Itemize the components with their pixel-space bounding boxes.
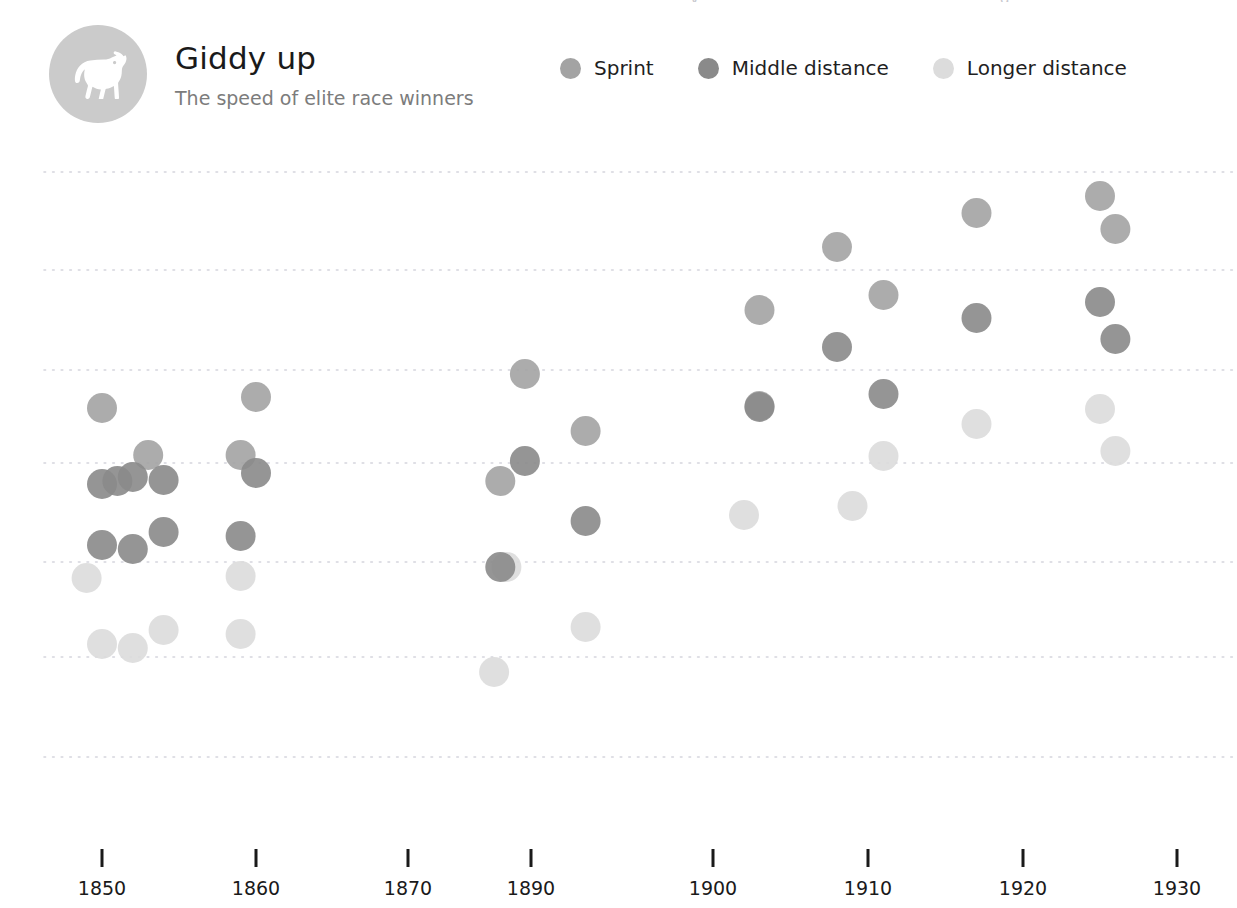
data-point[interactable] — [118, 462, 148, 492]
data-point[interactable] — [869, 280, 899, 310]
data-point[interactable] — [962, 198, 992, 228]
data-point[interactable] — [571, 506, 601, 536]
data-point[interactable] — [1085, 394, 1115, 424]
series-sprint — [87, 181, 1130, 496]
data-point[interactable] — [962, 409, 992, 439]
data-point[interactable] — [226, 619, 256, 649]
data-point[interactable] — [869, 379, 899, 409]
data-point[interactable] — [72, 563, 102, 593]
data-point[interactable] — [571, 416, 601, 446]
data-point[interactable] — [87, 530, 117, 560]
data-point[interactable] — [226, 521, 256, 551]
data-point[interactable] — [149, 615, 179, 645]
data-point[interactable] — [149, 517, 179, 547]
data-point[interactable] — [510, 359, 540, 389]
scatter-plot-canvas — [0, 0, 1237, 908]
data-point[interactable] — [1085, 287, 1115, 317]
data-point[interactable] — [485, 552, 515, 582]
data-point[interactable] — [485, 466, 515, 496]
data-point[interactable] — [1100, 324, 1130, 354]
data-point[interactable] — [118, 633, 148, 663]
data-point[interactable] — [149, 465, 179, 495]
data-point[interactable] — [118, 534, 148, 564]
data-point[interactable] — [571, 612, 601, 642]
data-point[interactable] — [838, 491, 868, 521]
data-point[interactable] — [241, 458, 271, 488]
chart-page: y g, Giddy up The speed of elite race wi… — [0, 0, 1237, 908]
data-point[interactable] — [745, 392, 775, 422]
scatter-plot-area — [0, 0, 1237, 908]
data-point[interactable] — [1085, 181, 1115, 211]
data-point[interactable] — [226, 561, 256, 591]
data-point[interactable] — [87, 629, 117, 659]
data-point[interactable] — [479, 657, 509, 687]
data-point[interactable] — [1100, 214, 1130, 244]
data-point[interactable] — [822, 232, 852, 262]
data-point[interactable] — [729, 500, 759, 530]
data-point[interactable] — [1100, 436, 1130, 466]
data-point[interactable] — [869, 441, 899, 471]
data-point[interactable] — [510, 446, 540, 476]
data-point[interactable] — [745, 295, 775, 325]
data-point[interactable] — [962, 303, 992, 333]
data-point[interactable] — [87, 393, 117, 423]
data-point[interactable] — [241, 382, 271, 412]
data-point[interactable] — [822, 332, 852, 362]
